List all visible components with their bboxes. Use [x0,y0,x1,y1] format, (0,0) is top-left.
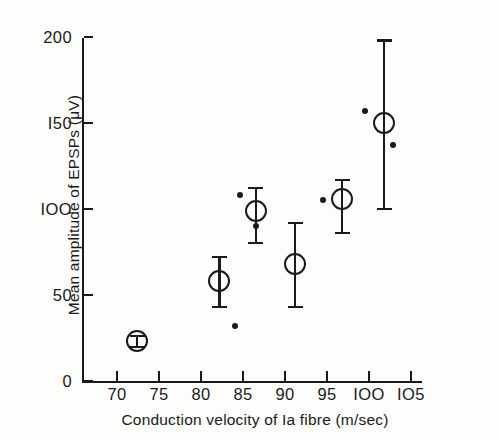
x-axis-tick [368,371,370,381]
mean-data-point [331,188,353,210]
error-bar-cap [212,256,227,258]
y-axis-tick [84,294,93,296]
mean-data-point [245,200,267,222]
x-axis-tick [284,371,286,381]
mean-data-point [284,253,306,275]
mean-data-point [208,270,230,292]
error-bar-cap [212,306,227,308]
x-axis-tick-label: IO5 [388,386,434,403]
individual-data-point [320,197,326,203]
y-axis-tick [84,122,93,124]
error-bar-cap [288,222,303,224]
x-axis-tick [200,371,202,381]
error-bar-cap [335,232,350,234]
y-axis-tick [84,36,93,38]
individual-data-point [390,142,396,148]
y-axis-tick [84,380,93,382]
x-axis-tick [242,371,244,381]
x-axis-tick [158,371,160,381]
mean-data-point [373,112,395,134]
x-axis-title: Conduction velocity of Ia fibre (m/sec) [60,411,450,429]
error-bar-cap [288,306,303,308]
x-axis-tick [410,371,412,381]
y-axis-tick-label: 0 [26,373,72,390]
individual-data-point [362,108,368,114]
individual-data-point [237,192,243,198]
x-axis-tick [116,371,118,381]
x-axis-tick-label: 80 [178,386,224,403]
mean-data-point [126,330,148,352]
individual-data-point [253,223,259,229]
error-bar-cap [377,208,392,210]
x-axis-tick-label: 75 [136,386,182,403]
x-axis-tick-label: 85 [220,386,266,403]
x-axis-tick [326,371,328,381]
x-axis-tick-label: 90 [262,386,308,403]
y-axis-tick [84,208,93,210]
error-bar-cap [335,179,350,181]
x-axis-tick-label: 95 [304,386,350,403]
error-bar-cap [377,39,392,41]
individual-data-point [232,323,238,329]
x-axis-line [82,381,422,383]
chart-figure: 050IOOI50200 707580859095IOOIO5 Mean amp… [0,0,499,441]
y-axis-tick-label: 200 [26,29,72,46]
x-axis-tick-label: 70 [94,386,140,403]
error-bar-cap [248,187,263,189]
error-bar-cap [248,242,263,244]
y-axis-title: Mean amplitude of EPSPs (μV) [65,45,83,365]
x-axis-tick-label: IOO [346,386,392,403]
